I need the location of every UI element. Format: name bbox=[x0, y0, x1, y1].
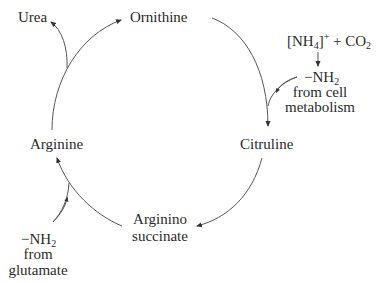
arrow-nh2-glutamate-to-arginine bbox=[53, 183, 69, 222]
node-arginine: Arginine bbox=[30, 136, 83, 152]
input-nh2-cell-line3: metabolism bbox=[285, 99, 355, 115]
node-citruline: Citruline bbox=[240, 136, 294, 152]
node-ornithine: Ornithine bbox=[130, 9, 188, 25]
input-nh2-cell-line2: from cell bbox=[293, 84, 348, 100]
arrow-arginine-to-urea bbox=[51, 22, 67, 68]
input-nh4-co2: [NH4]+ + CO2 bbox=[287, 31, 371, 51]
node-arginino-line1: Arginino bbox=[133, 211, 187, 227]
node-arginino-line2: succinate bbox=[132, 228, 188, 244]
input-nh2-glutamate-line2: from bbox=[23, 246, 52, 262]
node-urea: Urea bbox=[18, 9, 47, 25]
arrow-ornithine-to-citruline bbox=[212, 18, 268, 126]
urea-cycle-diagram: Urea Ornithine Citruline Arginine Argini… bbox=[0, 0, 381, 283]
arrow-citruline-to-argininosuccinate bbox=[197, 158, 262, 226]
input-nh2-glutamate-line3: glutamate bbox=[8, 262, 67, 278]
arrow-argininosuccinate-to-arginine bbox=[57, 158, 122, 226]
